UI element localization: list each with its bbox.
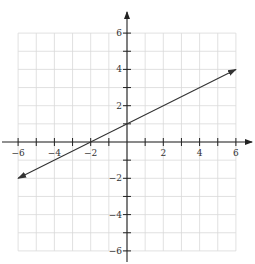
x-tick-label: 2	[160, 148, 166, 158]
x-tick-label: −6	[11, 148, 25, 158]
y-tick-label: −6	[109, 246, 123, 256]
x-tick-label: 6	[233, 148, 239, 158]
y-tick-label: −2	[109, 173, 122, 183]
y-tick-label: 2	[116, 101, 122, 111]
y-tick-label: −4	[109, 210, 123, 220]
coordinate-plane: −6−4−2246642−2−4−6	[0, 0, 255, 264]
x-tick-label: 4	[197, 148, 203, 158]
y-tick-label: 6	[116, 28, 122, 38]
axes	[2, 12, 252, 262]
x-tick-label: −4	[48, 148, 62, 158]
y-tick-label: 4	[116, 64, 122, 74]
x-tick-label: −2	[84, 148, 97, 158]
